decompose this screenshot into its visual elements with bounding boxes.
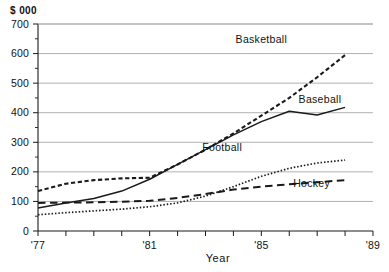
x-tick-label-1977: '77 (31, 239, 45, 251)
y-tick-label-500: 500 (11, 77, 29, 89)
chart-canvas: 0100200300400500600700 '77'81'85'89 Bask… (0, 0, 389, 272)
y-tick-label-600: 600 (11, 47, 29, 59)
y-tick-label-100: 100 (11, 195, 29, 207)
y-tick-label-300: 300 (11, 136, 29, 148)
y-tick-label-400: 400 (11, 106, 29, 118)
series-label-baseball: Baseball (299, 93, 342, 105)
y-tick-label-700: 700 (11, 18, 29, 30)
x-axis-title: Year (206, 252, 231, 264)
y-tick-label-200: 200 (11, 165, 29, 177)
series-label-basketball: Basketball (236, 33, 287, 45)
series-label-hockey: Hockey (293, 177, 330, 189)
x-tick-label-1981: '81 (143, 239, 157, 251)
series-label-football: Football (202, 141, 242, 153)
sports-salaries-line-chart: 0100200300400500600700 '77'81'85'89 Bask… (0, 0, 389, 272)
x-tick-label-1989: '89 (366, 239, 380, 251)
y-axis-unit-label: $ 000 (10, 5, 37, 16)
x-tick-label-1985: '85 (254, 239, 268, 251)
y-tick-label-0: 0 (23, 225, 29, 237)
